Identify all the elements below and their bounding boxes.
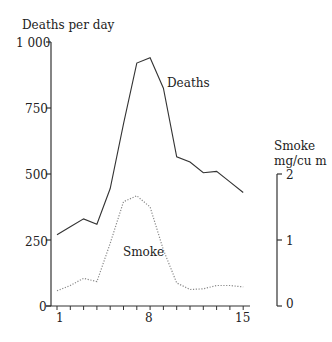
left-tick-0: 0: [39, 301, 47, 313]
right-tick-1: 1: [286, 235, 294, 247]
left-tick-250: 250: [25, 236, 48, 248]
x-tick-8: 8: [145, 312, 153, 324]
smoke-series-label: Smoke: [123, 246, 164, 258]
left-tick-750: 750: [25, 103, 48, 115]
line-chart-plot: [0, 0, 332, 342]
left-axis-title: Deaths per day: [22, 19, 114, 31]
left-tick-1000: 1 000: [16, 37, 50, 49]
deaths-series-label: Deaths: [167, 77, 210, 89]
right-axis-title-line1: Smoke: [274, 140, 315, 152]
x-tick-1: 1: [56, 312, 64, 324]
x-tick-15: 15: [235, 312, 250, 324]
right-tick-2: 2: [286, 169, 294, 181]
left-tick-500: 500: [25, 169, 48, 181]
right-axis-title-line2: mg/cu m: [274, 155, 327, 167]
smoke-series-line: [57, 196, 243, 291]
right-tick-0: 0: [286, 298, 294, 310]
